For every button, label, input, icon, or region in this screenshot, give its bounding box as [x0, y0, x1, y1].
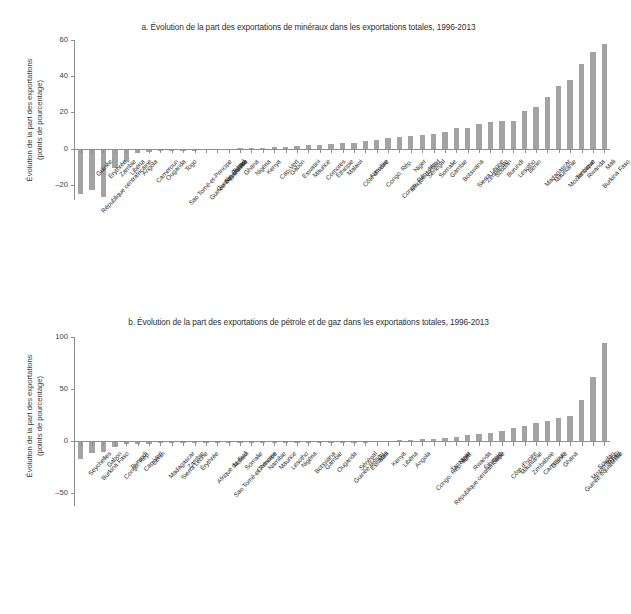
x-tick-mark: [513, 150, 514, 153]
x-tick-mark: [354, 150, 355, 153]
bar: [454, 128, 459, 149]
chart-a-x-labels: République centrafricaineGuinéeÉrythréeZ…: [75, 149, 610, 150]
x-tick-mark: [456, 442, 457, 445]
x-tick-mark: [445, 442, 446, 445]
x-tick-mark: [229, 150, 230, 153]
x-tick-mark: [502, 150, 503, 153]
x-tick-mark: [593, 442, 594, 445]
x-tick-mark: [365, 150, 366, 153]
x-tick-mark: [399, 442, 400, 445]
y-tick-mark: [71, 337, 75, 338]
chart-panel-b: b. Évolution de la part des exportations…: [0, 306, 617, 614]
x-tick-mark: [251, 150, 252, 153]
x-tick-mark: [604, 442, 605, 445]
bar: [579, 400, 584, 442]
x-tick-mark: [582, 150, 583, 153]
bar: [556, 86, 561, 149]
x-tick-mark: [115, 150, 116, 153]
bar: [590, 377, 595, 442]
x-tick-mark: [343, 442, 344, 445]
x-tick-mark: [582, 442, 583, 445]
x-tick-mark: [251, 442, 252, 445]
bar: [567, 416, 572, 441]
x-tick-mark: [217, 442, 218, 445]
x-tick-mark: [297, 150, 298, 153]
x-tick-mark: [331, 150, 332, 153]
x-tick-mark: [160, 442, 161, 445]
y-tick-mark: [71, 40, 75, 41]
x-tick-mark: [240, 150, 241, 153]
bar: [363, 141, 368, 149]
y-tick-label: 0: [64, 436, 68, 445]
x-tick-mark: [308, 150, 309, 153]
bar: [556, 418, 561, 441]
x-tick-mark: [138, 442, 139, 445]
x-tick-mark: [274, 442, 275, 445]
y-tick-mark: [71, 112, 75, 113]
chart-a-plot-area: 6040200–20 République centrafricaineGuin…: [74, 40, 610, 200]
x-tick-mark: [263, 442, 264, 445]
x-tick-mark: [126, 150, 127, 153]
x-tick-mark: [445, 150, 446, 153]
x-tick-mark: [604, 150, 605, 153]
bar: [78, 149, 83, 194]
x-tick-mark: [536, 150, 537, 153]
x-tick-mark: [468, 442, 469, 445]
x-tick-mark: [172, 442, 173, 445]
x-tick-mark: [126, 442, 127, 445]
y-tick-mark: [71, 389, 75, 390]
bar: [465, 128, 470, 149]
x-tick-mark: [240, 442, 241, 445]
x-tick-mark: [195, 150, 196, 153]
x-tick-mark: [490, 442, 491, 445]
x-tick-mark: [149, 150, 150, 153]
chart-a-bars: [75, 40, 610, 200]
y-tick-label: –20: [55, 180, 68, 189]
bar: [522, 111, 527, 150]
bar: [476, 434, 481, 441]
chart-b-title: b. Évolution de la part des exportations…: [0, 317, 617, 327]
x-tick-mark: [365, 442, 366, 445]
x-tick-mark: [206, 150, 207, 153]
x-tick-mark: [559, 150, 560, 153]
x-tick-mark: [81, 442, 82, 445]
x-tick-mark: [411, 150, 412, 153]
x-tick-mark: [354, 442, 355, 445]
x-tick-mark: [377, 442, 378, 445]
chart-a-y-axis-label: Évolution de la part des exportations (p…: [25, 40, 45, 200]
x-tick-mark: [536, 442, 537, 445]
x-tick-mark: [195, 442, 196, 445]
chart-a-y-axis-label-line1: Évolution de la part des exportations: [25, 59, 34, 182]
x-tick-mark: [92, 150, 93, 153]
x-tick-mark: [399, 150, 400, 153]
chart-a-title: a. Évolution de la part des exportations…: [0, 22, 617, 32]
bar: [590, 52, 595, 149]
bar: [488, 122, 493, 149]
x-tick-mark: [92, 442, 93, 445]
bar: [545, 97, 550, 149]
bar: [499, 121, 504, 149]
bar: [374, 140, 379, 149]
y-tick-label: 50: [60, 384, 68, 393]
x-tick-mark: [490, 150, 491, 153]
x-tick-mark: [206, 442, 207, 445]
bar: [89, 149, 94, 190]
chart-b-y-axis-label-line1: Évolution de la part des exportations: [25, 355, 34, 478]
x-tick-mark: [525, 442, 526, 445]
x-tick-mark: [263, 150, 264, 153]
y-tick-label: 20: [60, 107, 68, 116]
bar: [442, 132, 447, 149]
bar: [545, 421, 550, 441]
bar: [351, 143, 356, 150]
bar: [579, 64, 584, 149]
x-tick-mark: [479, 442, 480, 445]
x-tick-mark: [320, 442, 321, 445]
bar: [488, 433, 493, 441]
x-tick-mark: [138, 150, 139, 153]
bar: [511, 428, 516, 442]
x-tick-mark: [593, 150, 594, 153]
y-tick-label: –50: [55, 488, 68, 497]
y-tick-label: 0: [64, 144, 68, 153]
x-tick-mark: [297, 442, 298, 445]
